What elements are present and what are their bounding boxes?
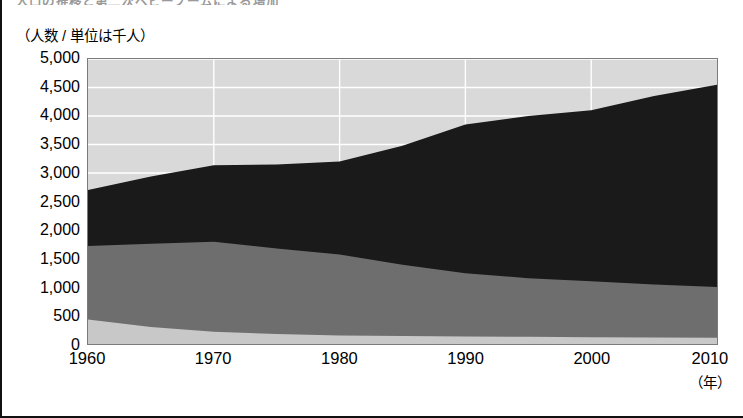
y-axis-tick-label: 3,000 bbox=[40, 165, 80, 181]
y-axis-tick-label: 5,000 bbox=[40, 50, 80, 66]
y-axis-tick-label: 500 bbox=[53, 308, 80, 324]
x-axis-tick-label: 2000 bbox=[573, 349, 610, 367]
y-axis-tick-label: 3,500 bbox=[40, 136, 80, 152]
y-axis-tick-labels: 05001,0001,5002,0002,5003,0003,5004,0004… bbox=[2, 58, 80, 345]
y-axis-tick-label: 1,500 bbox=[40, 251, 80, 267]
y-axis-tick-label: 1,000 bbox=[40, 280, 80, 296]
y-axis-unit-label: （人数 / 単位は千人） bbox=[16, 24, 154, 45]
x-axis-tick-label: 1980 bbox=[321, 349, 358, 367]
x-axis-tick-label: 2010 bbox=[692, 349, 729, 367]
clipped-heading-text: 人口の推移と第二次ベビーブームによる増加 bbox=[16, 0, 716, 5]
y-axis-tick-label: 2,000 bbox=[40, 222, 80, 238]
y-axis-tick-label: 2,500 bbox=[40, 194, 80, 210]
plot-wrapper bbox=[87, 58, 718, 345]
x-axis-tick-label: 1970 bbox=[195, 349, 232, 367]
stacked-area-svg bbox=[88, 59, 717, 344]
x-axis-tick-labels: 196019701980199020002010 bbox=[87, 349, 718, 389]
plot-area bbox=[87, 58, 718, 345]
y-axis-tick-label: 4,000 bbox=[40, 107, 80, 123]
x-axis-tick-label: 1990 bbox=[447, 349, 484, 367]
y-axis-tick-label: 4,500 bbox=[40, 79, 80, 95]
x-axis-unit-label: （年） bbox=[689, 371, 731, 392]
chart-figure: 人口の推移と第二次ベビーブームによる増加 （人数 / 単位は千人） 05001,… bbox=[0, 0, 743, 418]
x-axis-tick-label: 1960 bbox=[69, 349, 106, 367]
